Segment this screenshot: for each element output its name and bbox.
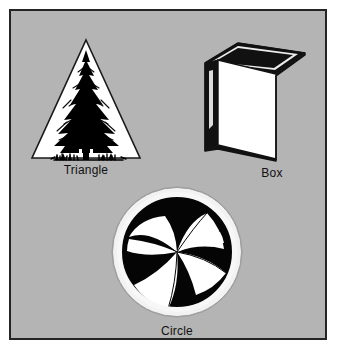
triangle-pine-tree-icon (27, 36, 145, 166)
image-canvas: Triangle Box (0, 0, 338, 351)
box-3d-icon (197, 41, 315, 163)
framed-panel: Triangle Box (9, 9, 327, 340)
box-figure (197, 41, 315, 163)
circle-caption: Circle (110, 324, 244, 338)
triangle-figure (27, 36, 145, 166)
circle-figure (110, 185, 244, 319)
triangle-caption: Triangle (27, 163, 145, 177)
box-caption: Box (229, 166, 315, 180)
circle-pinwheel-icon (110, 185, 244, 319)
